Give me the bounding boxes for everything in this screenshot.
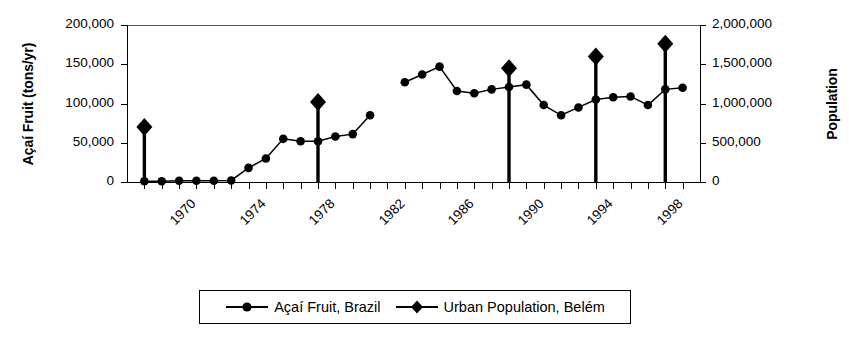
acai-data-point [401, 78, 410, 87]
acai-data-point [661, 85, 670, 94]
acai-data-point [470, 89, 479, 98]
acai-data-point [539, 101, 548, 110]
population-diamond-point [501, 59, 517, 77]
chart-figure: Açaí Fruit (tons/yr) Population 0050,000… [0, 0, 849, 344]
acai-line [144, 115, 370, 181]
acai-data-point [644, 101, 653, 110]
acai-data-point [505, 83, 514, 92]
acai-data-point [227, 176, 236, 185]
acai-data-point [574, 103, 583, 112]
acai-data-point [522, 80, 531, 89]
circle-marker-icon [225, 299, 269, 315]
acai-data-point [609, 93, 618, 102]
acai-data-point [140, 177, 149, 186]
acai-data-point [331, 132, 340, 141]
legend-item-acai: Açaí Fruit, Brazil [225, 299, 380, 315]
population-diamond-point [588, 47, 604, 65]
acai-data-point [678, 84, 687, 93]
acai-data-point [192, 177, 201, 186]
legend-label-acai: Açaí Fruit, Brazil [274, 299, 380, 315]
acai-data-point [557, 111, 566, 120]
acai-data-point [453, 87, 462, 96]
acai-data-point [175, 177, 184, 186]
acai-data-point [244, 164, 253, 173]
population-diamond-point [310, 93, 326, 111]
population-diamond-point [136, 118, 152, 136]
chart-legend: Açaí Fruit, Brazil Urban Population, Bel… [199, 290, 631, 324]
acai-data-point [435, 62, 444, 71]
acai-data-point [157, 177, 166, 186]
acai-data-point [592, 95, 601, 104]
acai-data-point [626, 92, 635, 101]
acai-data-point [262, 154, 271, 163]
diamond-marker-icon [395, 299, 439, 315]
acai-data-point [487, 85, 496, 94]
acai-data-point [366, 111, 375, 120]
legend-label-population: Urban Population, Belém [444, 299, 605, 315]
acai-data-point [418, 70, 427, 79]
legend-item-population: Urban Population, Belém [395, 299, 605, 315]
acai-data-point [279, 135, 288, 144]
acai-data-point [314, 137, 323, 146]
population-diamond-point [657, 35, 673, 53]
acai-data-point [210, 177, 219, 186]
acai-data-point [348, 130, 357, 139]
acai-data-point [296, 137, 305, 146]
